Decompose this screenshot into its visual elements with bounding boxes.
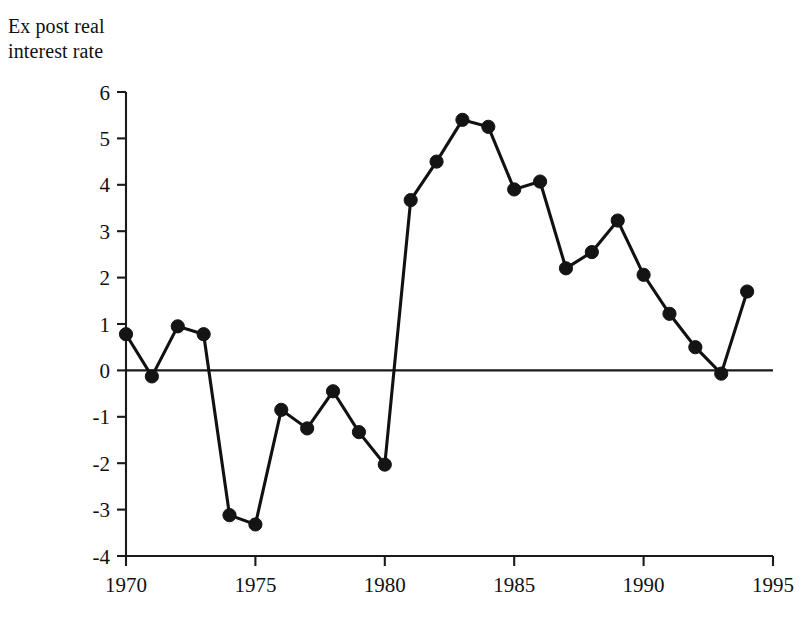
data-point-marker bbox=[741, 285, 754, 298]
y-tick-label: -3 bbox=[93, 498, 111, 522]
chart-container: Ex post real interest rate 6543210-1-2-3… bbox=[0, 0, 812, 625]
x-tick-label: 1980 bbox=[364, 573, 406, 597]
data-point-marker bbox=[223, 509, 236, 522]
y-tick-label: 0 bbox=[100, 359, 111, 383]
data-point-marker bbox=[456, 113, 469, 126]
y-tick-label: -1 bbox=[93, 405, 111, 429]
y-tick-label: 5 bbox=[100, 127, 111, 151]
data-point-marker bbox=[689, 341, 702, 354]
data-point-marker bbox=[482, 120, 495, 133]
data-point-marker bbox=[663, 307, 676, 320]
y-tick-label: -4 bbox=[93, 545, 111, 569]
data-point-marker bbox=[145, 370, 158, 383]
series-line-ex-post-real-interest-rate bbox=[126, 120, 747, 525]
y-tick-label: -2 bbox=[93, 452, 111, 476]
data-point-marker bbox=[715, 367, 728, 380]
data-point-marker bbox=[533, 175, 546, 188]
data-point-marker bbox=[559, 262, 572, 275]
y-tick-label: 2 bbox=[100, 266, 111, 290]
data-point-marker bbox=[171, 320, 184, 333]
data-point-marker bbox=[249, 518, 262, 531]
y-tick-label: 4 bbox=[100, 173, 111, 197]
x-tick-label: 1975 bbox=[234, 573, 276, 597]
data-point-marker bbox=[326, 385, 339, 398]
y-tick-label: 3 bbox=[100, 220, 111, 244]
x-tick-label: 1985 bbox=[493, 573, 535, 597]
y-tick-label: 1 bbox=[100, 313, 111, 337]
data-point-marker bbox=[585, 245, 598, 258]
y-tick-label: 6 bbox=[100, 81, 111, 105]
data-point-marker bbox=[508, 183, 521, 196]
y-axis-tick-labels: 6543210-1-2-3-4 bbox=[93, 81, 111, 569]
x-tick-label: 1995 bbox=[752, 573, 794, 597]
data-point-marker bbox=[637, 268, 650, 281]
data-point-marker bbox=[430, 155, 443, 168]
x-axis-ticks bbox=[126, 556, 773, 566]
data-point-marker bbox=[119, 328, 132, 341]
data-point-marker bbox=[404, 194, 417, 207]
data-point-marker bbox=[352, 426, 365, 439]
x-tick-label: 1970 bbox=[105, 573, 147, 597]
data-point-marker bbox=[378, 458, 391, 471]
data-point-marker bbox=[611, 214, 624, 227]
data-point-marker bbox=[275, 403, 288, 416]
x-tick-label: 1990 bbox=[623, 573, 665, 597]
data-point-marker bbox=[197, 328, 210, 341]
series-markers bbox=[119, 113, 753, 531]
chart-plot-area: 6543210-1-2-3-4 197019751980198519901995 bbox=[0, 0, 812, 625]
y-axis-ticks bbox=[117, 92, 126, 556]
x-axis-tick-labels: 197019751980198519901995 bbox=[105, 573, 794, 597]
data-point-marker bbox=[301, 422, 314, 435]
